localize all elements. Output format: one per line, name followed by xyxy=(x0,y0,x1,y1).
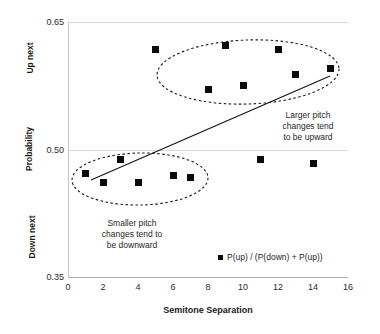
x-tick-label-14: 14 xyxy=(303,282,323,292)
data-point xyxy=(170,172,177,179)
data-point xyxy=(240,82,247,89)
data-point xyxy=(310,160,317,167)
chart-figure: 0.65 0.50 0.35 0 2 4 6 8 10 12 14 16 Up … xyxy=(0,0,380,334)
data-point xyxy=(222,42,229,49)
x-tick-label-0: 0 xyxy=(58,282,78,292)
y-tick-label-top: 0.65 xyxy=(30,17,64,27)
chart-legend: P(up) / (P(down) + P(up)) xyxy=(218,252,323,262)
upper-cluster-annotation-line-2: changes tend xyxy=(262,121,354,132)
data-point xyxy=(152,46,159,53)
x-tick-label-6: 6 xyxy=(163,282,183,292)
legend-label-1: P(up) / (P(down) + P(up)) xyxy=(227,252,323,262)
x-tick-label-12: 12 xyxy=(268,282,288,292)
lower-cluster-annotation-line-1: Smaller pitch xyxy=(78,218,186,229)
data-point xyxy=(117,156,124,163)
y-tick-label-mid: 0.50 xyxy=(30,145,64,155)
x-tick-label-4: 4 xyxy=(128,282,148,292)
data-point xyxy=(257,156,264,163)
x-tick-label-8: 8 xyxy=(198,282,218,292)
y-axis-title: Probability xyxy=(24,114,34,184)
region-label-down: Down next xyxy=(27,202,37,272)
data-point xyxy=(205,86,212,93)
data-point xyxy=(292,71,299,78)
data-point xyxy=(327,65,334,72)
x-tick-label-2: 2 xyxy=(93,282,113,292)
x-tick-label-10: 10 xyxy=(233,282,253,292)
region-label-up: Up next xyxy=(25,23,35,93)
data-point xyxy=(135,179,142,186)
data-point xyxy=(100,179,107,186)
lower-cluster-annotation-line-2: changes tend to xyxy=(78,229,186,240)
lower-cluster-annotation: Smaller pitch changes tend to be downwar… xyxy=(78,218,186,251)
upper-cluster-annotation: Larger pitch changes tend to be upward xyxy=(262,110,354,143)
legend-marker-swatch-icon xyxy=(218,255,223,260)
lower-cluster-annotation-line-3: be downward xyxy=(78,240,186,251)
y-tick-label-bottom: 0.35 xyxy=(30,272,64,282)
data-point xyxy=(187,174,194,181)
x-tick-label-16: 16 xyxy=(338,282,358,292)
data-point xyxy=(82,170,89,177)
data-point xyxy=(275,46,282,53)
upper-cluster-annotation-line-3: to be upward xyxy=(262,132,354,143)
upper-cluster-annotation-line-1: Larger pitch xyxy=(262,110,354,121)
gridline-0.50 xyxy=(68,150,348,151)
x-axis-title: Semitone Separation xyxy=(68,305,348,315)
